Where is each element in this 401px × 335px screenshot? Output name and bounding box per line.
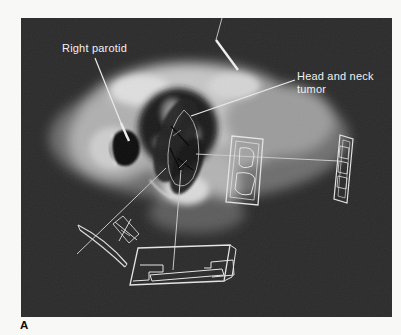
tumor-label-line1: Head and neck: [297, 70, 374, 83]
treatment-plan-image: Right parotid Head and neck tumor: [21, 18, 392, 317]
film-grain-overlay: [21, 18, 392, 317]
panel-label: A: [20, 319, 28, 331]
tumor-label-line2: tumor: [297, 83, 374, 96]
right-parotid-label: Right parotid: [62, 42, 127, 55]
tumor-label: Head and neck tumor: [297, 70, 374, 96]
3d-treatment-plan-rendering: [21, 18, 392, 317]
figure-page: Right parotid Head and neck tumor A: [0, 0, 401, 335]
